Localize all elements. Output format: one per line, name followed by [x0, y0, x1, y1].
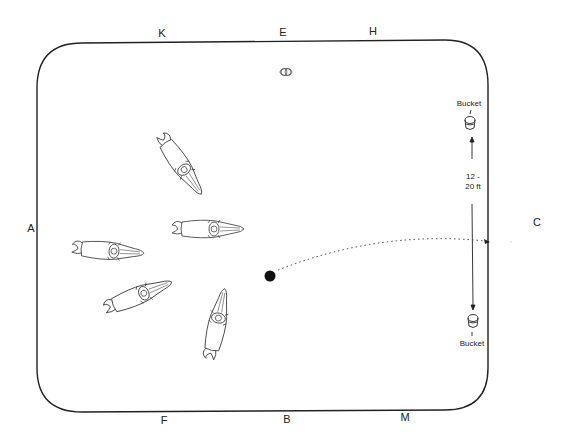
letter-m: M — [400, 411, 409, 423]
ball-icon — [265, 271, 276, 282]
bucket-bottom-label: Bucket — [460, 339, 484, 348]
letter-k: K — [158, 27, 165, 39]
trajectory-arrowhead — [484, 239, 490, 244]
bucket-bottom-icon — [468, 315, 478, 337]
bucket-top-label: Bucket — [457, 99, 481, 108]
horse-icon — [71, 239, 144, 262]
distance-arrow — [470, 137, 475, 310]
arena-outline — [37, 40, 488, 412]
letter-a: A — [27, 222, 34, 234]
bucket-top-icon — [465, 110, 475, 130]
horse-icon — [102, 274, 176, 318]
letter-b: B — [283, 413, 290, 425]
distance-label-line2: 20 ft — [465, 182, 481, 191]
letter-c: C — [533, 216, 541, 228]
horse-icon — [172, 220, 244, 238]
cone-marker-icon — [280, 69, 292, 76]
arena-diagram — [0, 0, 566, 448]
trajectory-dotted-line — [278, 239, 485, 270]
letter-f: F — [161, 414, 168, 426]
distance-label-line1: 12 - — [466, 172, 480, 181]
letter-e: E — [279, 26, 286, 38]
horse-icon — [153, 130, 209, 199]
letter-h: H — [369, 25, 377, 37]
faint-dot — [510, 241, 512, 243]
horse-icon — [201, 287, 234, 361]
